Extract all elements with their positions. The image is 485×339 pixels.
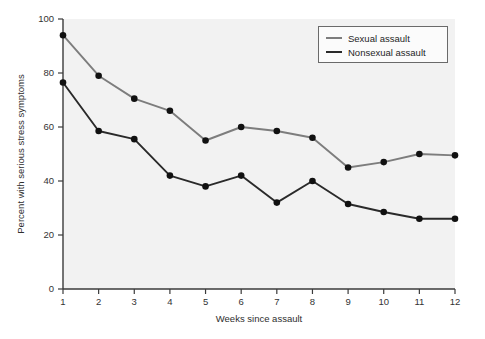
data-point bbox=[416, 216, 423, 223]
x-tick-label: 9 bbox=[345, 296, 350, 307]
y-axis-title: Percent with serious stress symptoms bbox=[15, 74, 26, 234]
line-chart: 020406080100 123456789101112 Percent wit… bbox=[0, 0, 485, 339]
data-point bbox=[202, 183, 209, 190]
data-point bbox=[131, 136, 138, 143]
data-point bbox=[274, 128, 281, 135]
x-tick-label: 5 bbox=[203, 296, 208, 307]
x-tick-label: 11 bbox=[414, 296, 424, 307]
x-tick-label: 2 bbox=[96, 296, 101, 307]
data-point bbox=[238, 124, 245, 131]
data-point bbox=[380, 209, 387, 216]
data-point bbox=[309, 178, 316, 185]
x-tick-label: 10 bbox=[378, 296, 389, 307]
y-tick-label: 0 bbox=[49, 283, 54, 294]
data-point bbox=[95, 72, 102, 79]
x-tick-label: 7 bbox=[274, 296, 279, 307]
y-tick-label: 20 bbox=[43, 229, 54, 240]
x-axis: 123456789101112 bbox=[60, 289, 460, 307]
data-point bbox=[380, 159, 387, 166]
y-tick-label: 40 bbox=[43, 175, 54, 186]
x-tick-label: 8 bbox=[310, 296, 315, 307]
y-tick-label: 100 bbox=[38, 13, 54, 24]
x-tick-label: 6 bbox=[239, 296, 244, 307]
data-point bbox=[167, 108, 174, 115]
data-point bbox=[167, 172, 174, 179]
legend-label-nonsexual-assault: Nonsexual assault bbox=[348, 47, 426, 58]
x-axis-title: Weeks since assault bbox=[216, 313, 303, 324]
x-tick-label: 4 bbox=[167, 296, 172, 307]
data-point bbox=[60, 79, 67, 86]
data-point bbox=[95, 128, 102, 135]
data-point bbox=[131, 95, 138, 102]
x-tick-label: 12 bbox=[450, 296, 461, 307]
data-point bbox=[345, 201, 352, 208]
data-point bbox=[60, 32, 67, 39]
y-tick-label: 60 bbox=[43, 121, 54, 132]
chart-figure: 020406080100 123456789101112 Percent wit… bbox=[0, 0, 485, 339]
data-point bbox=[452, 216, 459, 223]
x-tick-label: 3 bbox=[132, 296, 137, 307]
data-point bbox=[416, 151, 423, 158]
data-point bbox=[452, 152, 459, 159]
x-tick-label: 1 bbox=[60, 296, 65, 307]
y-axis: 020406080100 bbox=[38, 13, 63, 294]
legend-label-sexual-assault: Sexual assault bbox=[348, 33, 410, 44]
data-point bbox=[202, 137, 209, 144]
data-point bbox=[274, 199, 281, 206]
y-tick-label: 80 bbox=[43, 67, 54, 78]
data-point bbox=[345, 164, 352, 171]
data-point bbox=[309, 135, 316, 142]
data-point bbox=[238, 172, 245, 179]
legend: Sexual assault Nonsexual assault bbox=[319, 27, 448, 63]
